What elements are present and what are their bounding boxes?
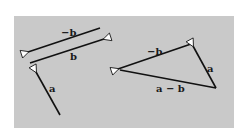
label-b: b bbox=[70, 51, 77, 62]
triangle-vector-group: −b a a − b bbox=[118, 44, 216, 94]
label-a: a bbox=[49, 83, 56, 94]
vector-a-line bbox=[36, 72, 60, 115]
triangle-label-a: a bbox=[207, 63, 214, 74]
triangle-label-neg-b: −b bbox=[147, 46, 162, 57]
vector-b-line bbox=[30, 39, 104, 63]
left-vector-group: −b b a bbox=[28, 27, 104, 115]
label-neg-b: −b bbox=[61, 27, 76, 38]
triangle-label-a-minus-b: a − b bbox=[156, 83, 185, 94]
vector-diagram: −b b a −b a a − b bbox=[0, 0, 246, 133]
